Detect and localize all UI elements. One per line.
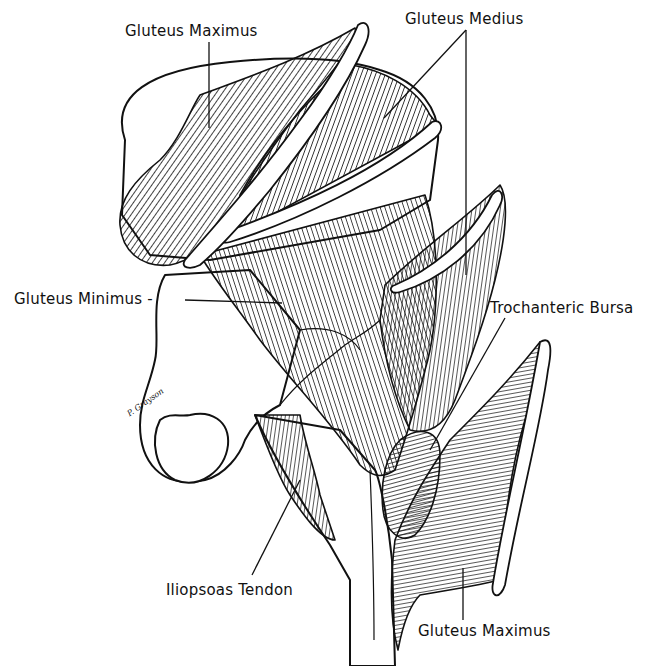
label-gluteus-medius: Gluteus Medius xyxy=(405,10,523,28)
label-iliopsoas-tendon: Iliopsoas Tendon xyxy=(166,581,293,599)
hip-anatomy-illustration xyxy=(0,0,663,666)
label-gluteus-maximus-bottom: Gluteus Maximus xyxy=(418,622,551,640)
label-gluteus-maximus-top: Gluteus Maximus xyxy=(125,22,258,40)
leader-iliopsoas-tendon xyxy=(252,480,300,575)
label-trochanteric-bursa: Trochanteric Bursa xyxy=(490,299,633,317)
label-gluteus-minimus: Gluteus Minimus - xyxy=(14,290,153,308)
